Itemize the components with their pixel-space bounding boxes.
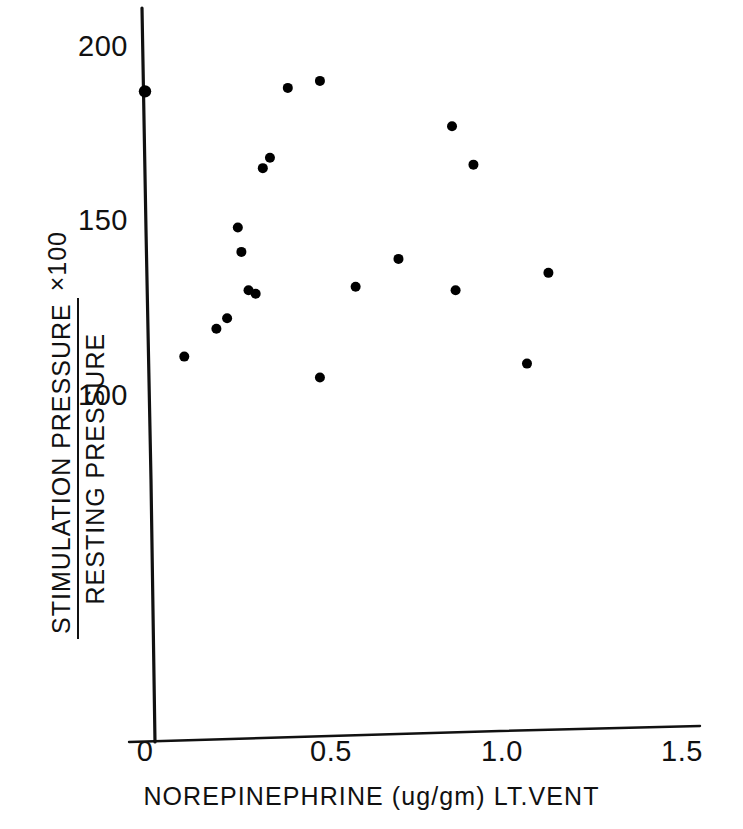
data-point: [265, 153, 275, 163]
data-point: [251, 289, 261, 299]
y-axis-title: STIMULATION PRESSURE RESTING PRESSURE ×1…: [41, 125, 115, 745]
x-axis-line: [129, 726, 700, 742]
xtick-label-1-0: 1.0: [462, 735, 542, 768]
data-point: [222, 313, 232, 323]
y-axis-line: [142, 8, 155, 742]
data-point: [315, 373, 325, 383]
xtick-label-0: 0: [115, 735, 175, 768]
data-point: [393, 254, 403, 264]
y-axis-title-fraction: STIMULATION PRESSURE RESTING PRESSURE: [47, 298, 109, 639]
y-axis-title-numerator: STIMULATION PRESSURE: [47, 298, 77, 639]
y-axis-title-multiplier: ×100: [41, 231, 72, 291]
data-point: [258, 163, 268, 173]
data-point: [236, 247, 246, 257]
scatter-plot-figure: 200 150 100 0 0.5 1.0 1.5 NOREPINEPHRINE…: [0, 0, 743, 829]
data-point: [447, 121, 457, 131]
data-point: [451, 285, 461, 295]
data-point: [522, 359, 532, 369]
data-point: [351, 282, 361, 292]
data-point: [139, 85, 151, 97]
data-point-group: [139, 76, 554, 383]
data-point: [179, 352, 189, 362]
y-axis-title-denominator: RESTING PRESSURE: [79, 328, 109, 610]
data-point: [543, 268, 553, 278]
xtick-label-1-5: 1.5: [642, 735, 722, 768]
data-point: [233, 222, 243, 232]
xtick-label-0-5: 0.5: [291, 735, 371, 768]
ytick-label-200: 200: [58, 30, 128, 63]
data-point: [468, 160, 478, 170]
data-point: [283, 83, 293, 93]
data-point: [211, 324, 221, 334]
x-axis-title: NOREPINEPHRINE (ug/gm) LT.VENT: [0, 782, 743, 811]
data-point: [315, 76, 325, 86]
